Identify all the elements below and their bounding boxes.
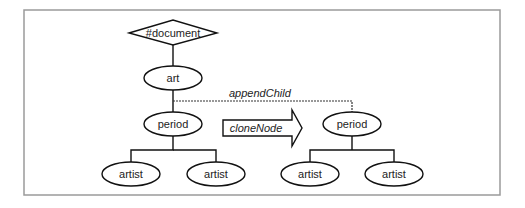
node-artist-original-1: artist [102, 162, 160, 186]
node-period-original-label: period [158, 118, 189, 130]
node-art: art [144, 66, 202, 90]
node-artist-clone-2: artist [365, 162, 423, 186]
node-period-original: period [144, 112, 202, 136]
edge-period-artist-1 [131, 136, 173, 162]
append-child-label: appendChild [229, 87, 292, 99]
node-document-label: #document [146, 27, 200, 39]
edge-period-artist-2 [173, 150, 216, 162]
node-artist-label: artist [204, 168, 228, 180]
node-artist-label: artist [298, 168, 322, 180]
edge-clone-period-artists [310, 150, 394, 162]
append-child-connector [173, 101, 352, 112]
node-art-label: art [167, 72, 180, 84]
node-artist-label: artist [119, 168, 143, 180]
tree-edges [131, 45, 394, 162]
node-artist-label: artist [382, 168, 406, 180]
node-document: #document [129, 20, 217, 45]
dom-tree-diagram: appendChild #document art period artist … [0, 0, 525, 208]
clone-node-arrow: cloneNode [223, 110, 302, 146]
diagram-frame [24, 10, 500, 195]
clone-node-label: cloneNode [230, 122, 283, 134]
node-period-clone: period [323, 112, 381, 136]
node-period-clone-label: period [337, 118, 368, 130]
node-artist-clone-1: artist [281, 162, 339, 186]
node-artist-original-2: artist [187, 162, 245, 186]
